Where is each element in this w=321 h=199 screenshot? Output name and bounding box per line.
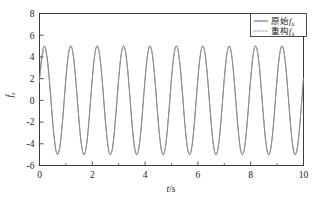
line-chart: 86420-2-4-6 0246810 fs t/s 原始fs [0,0,321,199]
figure-container: 86420-2-4-6 0246810 fs t/s 原始fs [0,0,321,199]
x-tick-label: 2 [90,170,95,180]
x-axis-title: t/s [167,184,176,194]
x-tick-label: 8 [248,170,253,180]
y-tick-label: -2 [27,117,35,127]
y-tick-label: 8 [30,9,35,19]
x-tick-label: 10 [299,170,309,180]
y-tick-label: -6 [27,161,35,171]
chart-legend[interactable]: 原始fs 重构fs [251,14,307,38]
y-tick-label: 0 [30,96,35,106]
y-tick-label: 2 [30,74,35,84]
x-tick-label: 6 [196,170,201,180]
x-tick-label: 0 [37,170,42,180]
y-tick-label: -4 [27,139,35,149]
legend-label-reconstructed-text: 重构fs [271,26,295,37]
x-axis-title-unit: /s [169,184,176,194]
y-tick-label: 4 [30,52,35,62]
svg-text:t/s: t/s [167,184,176,194]
x-tick-label: 4 [143,170,148,180]
y-tick-label: 6 [30,31,35,41]
